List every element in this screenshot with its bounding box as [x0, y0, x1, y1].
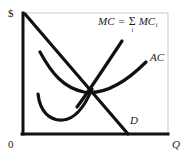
y-axis-label: $ — [8, 8, 14, 19]
marginal-cost-equation-label: MC = Σ i MC i — [98, 15, 157, 33]
mc-equation-rhs-term: MC i — [139, 16, 158, 27]
origin-label: 0 — [8, 139, 14, 150]
mc-term-subscript: i — [156, 22, 158, 28]
summation-symbol-group: Σ i — [129, 15, 136, 33]
sigma-subscript: i — [131, 27, 133, 33]
mc-equation-mc-text: MC — [98, 16, 115, 27]
x-axis-label: Q — [172, 139, 180, 150]
demand-label: D — [130, 115, 138, 126]
marginal-cost-curve — [77, 41, 122, 107]
mc-equation-lhs: MC — [98, 16, 115, 27]
average-cost-label: AC — [150, 52, 164, 63]
mc-term-text: MC — [139, 16, 156, 27]
individual-mc-curve — [38, 89, 92, 120]
sigma-icon: Σ — [129, 15, 136, 27]
plot-canvas — [0, 0, 189, 157]
mc-equation-equals-sign: = — [118, 16, 126, 27]
economics-diagram-screenshot: $ 0 Q MC = Σ i MC i AC D — [0, 0, 189, 157]
